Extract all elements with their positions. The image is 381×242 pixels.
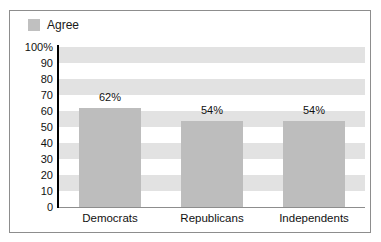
x-axis-tick-label: Democrats	[59, 211, 161, 225]
y-axis-tick-label: 40	[10, 138, 53, 149]
bars-layer: 62%54%54%	[59, 47, 365, 207]
y-axis-tick-label: 20	[10, 170, 53, 181]
y-axis-tick-labels: 100%9080706050403020100	[10, 47, 53, 207]
y-axis-tick-label: 0	[10, 202, 53, 213]
y-axis-tick-label: 50	[10, 122, 53, 133]
chart-figure: Agree 100%9080706050403020100 62%54%54% …	[9, 10, 371, 233]
y-axis-tick-label: 80	[10, 74, 53, 85]
y-axis-tick-label: 60	[10, 106, 53, 117]
bar-value-label: 54%	[181, 105, 243, 116]
y-axis-tick-label: 70	[10, 90, 53, 101]
bar-democrats	[79, 108, 141, 207]
bar-value-label: 54%	[283, 105, 345, 116]
x-axis-tick-labels: DemocratsRepublicansIndependents	[59, 211, 365, 227]
bar-republicans	[181, 121, 243, 207]
bar-value-label: 62%	[79, 92, 141, 103]
chart-legend: Agree	[28, 16, 79, 34]
y-axis-tick-label: 30	[10, 154, 53, 165]
x-axis-tick-label: Independents	[263, 211, 365, 225]
bar-group: 62%	[79, 47, 141, 207]
bar-group: 54%	[181, 47, 243, 207]
plot-wrapper: 100%9080706050403020100 62%54%54% Democr…	[57, 47, 365, 222]
y-axis-tick-label: 10	[10, 186, 53, 197]
y-axis-tick-label: 90	[10, 58, 53, 69]
bar-independents	[283, 121, 345, 207]
y-axis-tick-label: 100%	[10, 42, 53, 53]
x-axis-tick-label: Republicans	[161, 211, 263, 225]
x-axis-line	[59, 207, 365, 208]
legend-label-agree: Agree	[47, 19, 79, 31]
bar-group: 54%	[283, 47, 345, 207]
legend-swatch-agree	[28, 19, 40, 31]
